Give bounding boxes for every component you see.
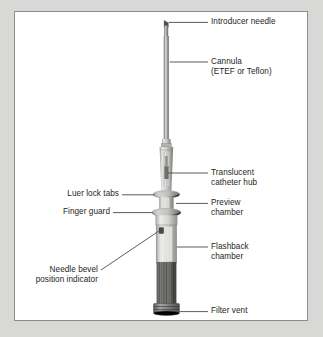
label-flashback-chamber: Flashback chamber [211, 242, 249, 262]
label-filter-vent: Filter vent [211, 306, 248, 316]
introducer-needle-part [164, 21, 168, 38]
label-preview-chamber: Preview chamber [211, 198, 243, 218]
label-luer-lock-tabs: Luer lock tabs [41, 189, 119, 199]
figure-container: Introducer needle Cannula (ETEF or Teflo… [0, 0, 323, 337]
label-finger-guard: Finger guard [31, 207, 110, 217]
label-cannula: Cannula (ETEF or Teflon) [211, 57, 272, 77]
cannula-part [164, 36, 169, 140]
catheter-body-upper [155, 215, 177, 225]
filter-vent-part [154, 303, 180, 315]
label-needle-bevel-position-indicator: Needle bevel position indicator [23, 265, 98, 285]
cannula-collar [161, 139, 171, 147]
device-iv-catheter [152, 21, 181, 316]
leader-lines [101, 22, 208, 311]
device-illustration [0, 0, 323, 337]
label-translucent-catheter-hub: Translucent catheter hub [211, 168, 257, 188]
translucent-catheter-hub-part [160, 147, 174, 192]
leader-needle-bevel-position-indicator [101, 231, 159, 270]
catheter-barrel [157, 262, 177, 304]
needle-bevel-position-indicator-part [159, 227, 164, 233]
label-introducer-needle: Introducer needle [211, 17, 276, 27]
